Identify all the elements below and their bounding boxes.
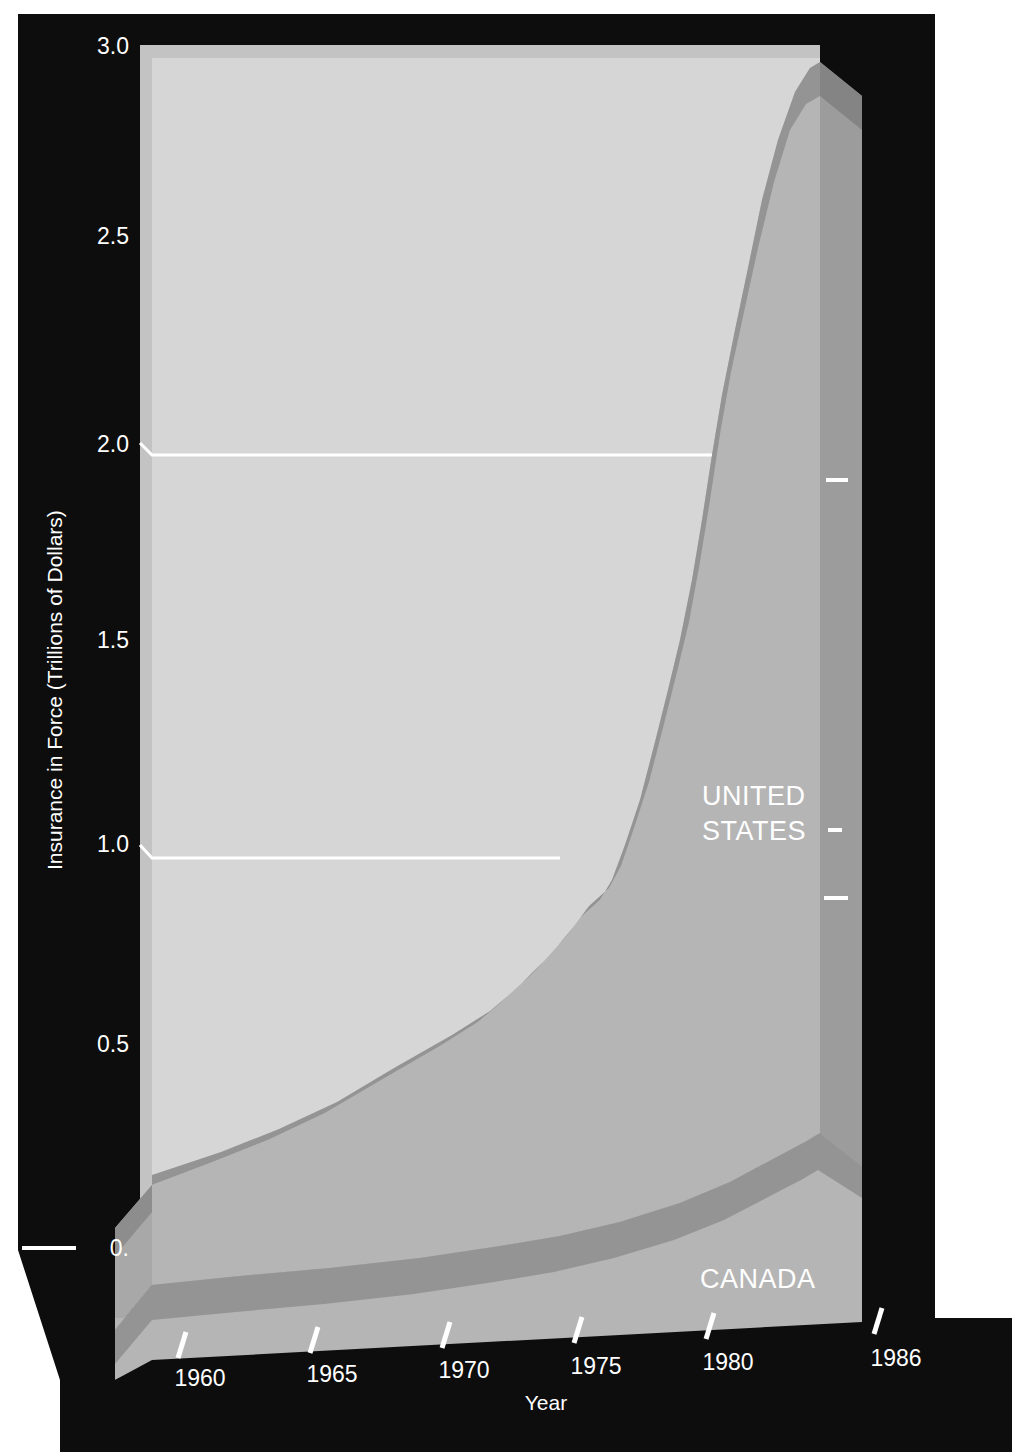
y-tick-label-2-5: 2.5 — [97, 223, 129, 249]
us-right-face — [820, 62, 862, 1318]
x-tick-label-1960: 1960 — [174, 1365, 225, 1391]
x-tick-label-1986: 1986 — [870, 1345, 921, 1371]
chart-figure: 3.0 2.5 2.0 1.5 1.0 0.5 0. Insurance in … — [0, 0, 1012, 1452]
y-tick-label-0-5: 0.5 — [97, 1031, 129, 1057]
series-label-united-states-line1: UNITED — [702, 781, 806, 811]
x-axis-title: Year — [525, 1391, 567, 1414]
series-label-canada: CANADA — [700, 1264, 816, 1294]
x-tick-label-1965: 1965 — [306, 1361, 357, 1387]
x-tick-label-1980: 1980 — [702, 1349, 753, 1375]
y-tick-label-0: 0. — [110, 1235, 129, 1261]
y-tick-label-1-0: 1.0 — [97, 831, 129, 857]
y-axis-title: Insurance in Force (Trillions of Dollars… — [43, 510, 66, 870]
x-tick-label-1970: 1970 — [438, 1357, 489, 1383]
y-tick-label-1-5: 1.5 — [97, 627, 129, 653]
series-label-united-states-line2: STATES — [702, 816, 806, 846]
area-chart-svg: 3.0 2.5 2.0 1.5 1.0 0.5 0. Insurance in … — [0, 0, 1012, 1452]
y-tick-label-2-0: 2.0 — [97, 431, 129, 457]
x-tick-label-1975: 1975 — [570, 1353, 621, 1379]
y-tick-label-3-0: 3.0 — [97, 33, 129, 59]
